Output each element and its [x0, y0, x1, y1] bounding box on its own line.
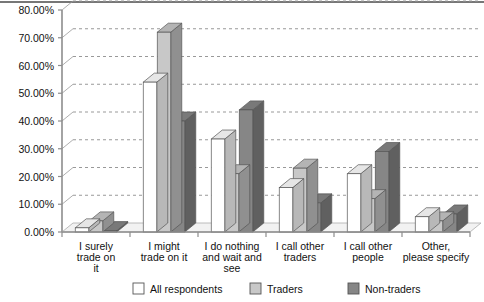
y-axis-tick-label: 70.00% [18, 32, 54, 44]
gridline-connector [62, 112, 73, 121]
chart-legend: All respondentsTradersNon-traders [133, 283, 420, 295]
bar-side-face [389, 143, 400, 232]
y-axis-tick-label: 10.00% [18, 198, 54, 210]
bar-chart: 0.00%10.00%20.00%30.00%40.00%50.00%60.00… [0, 0, 484, 302]
legend-swatch [133, 283, 144, 294]
y-axis-tick-label: 30.00% [18, 143, 54, 155]
legend-item-traders[interactable]: Traders [250, 283, 303, 295]
legend-swatch [348, 283, 359, 294]
bar-all-respondents [347, 165, 372, 232]
bar-all-respondents [143, 73, 168, 232]
bar-front-face [347, 174, 361, 232]
legend-swatch [250, 283, 261, 294]
y-axis-tick-label: 60.00% [18, 60, 54, 72]
gridline-connector [62, 57, 73, 66]
gridline-connector [62, 195, 73, 204]
x-axis-category-label: trade on it [141, 251, 188, 263]
legend-label: Traders [267, 283, 303, 295]
bar-side-face [361, 165, 372, 232]
bar-all-respondents [279, 179, 304, 232]
gridlines [62, 1, 481, 204]
y-axis-tick-label: 50.00% [18, 87, 54, 99]
bar-all-respondents [211, 130, 236, 232]
y-axis-tick-labels: 0.00%10.00%20.00%30.00%40.00%50.00%60.00… [18, 4, 54, 238]
bar-side-face [185, 112, 196, 232]
x-axis-category-label: people [352, 251, 384, 263]
bar-side-face [225, 130, 236, 232]
gridline-connector [62, 140, 73, 149]
bar-front-face [143, 82, 157, 232]
legend-item-all-respondents[interactable]: All respondents [133, 283, 222, 295]
y-axis-tick-label: 0.00% [24, 226, 54, 238]
gridline-connector [62, 29, 73, 38]
bar-side-face [171, 23, 182, 232]
bar-side-face [239, 165, 250, 232]
x-axis-category-label: see [224, 262, 241, 274]
bar-series-group [75, 23, 468, 232]
y-axis [58, 10, 62, 232]
x-axis-category-labels: I surelytrade onitI mighttrade on itI do… [77, 240, 470, 274]
x-axis-category-label: it [93, 262, 98, 274]
y-axis-tick-label: 80.00% [18, 4, 54, 16]
gridline-connector [62, 84, 73, 93]
bar-front-face [415, 217, 429, 232]
bar-front-face [211, 139, 225, 232]
legend-label: All respondents [150, 283, 222, 295]
chart-container: 0.00%10.00%20.00%30.00%40.00%50.00%60.00… [0, 0, 484, 302]
legend-label: Non-traders [365, 283, 420, 295]
x-axis-category-label: please specify [403, 251, 470, 263]
legend-item-non-traders[interactable]: Non-traders [348, 283, 420, 295]
y-axis-tick-label: 20.00% [18, 171, 54, 183]
y-axis-tick-label: 40.00% [18, 115, 54, 127]
bar-front-face [279, 188, 293, 232]
bar-side-face [157, 73, 168, 232]
x-axis [62, 232, 470, 237]
bar-side-face [253, 101, 264, 232]
bar-side-face [307, 159, 318, 232]
x-axis-category-label: traders [284, 251, 317, 263]
gridline-connector [62, 168, 73, 177]
